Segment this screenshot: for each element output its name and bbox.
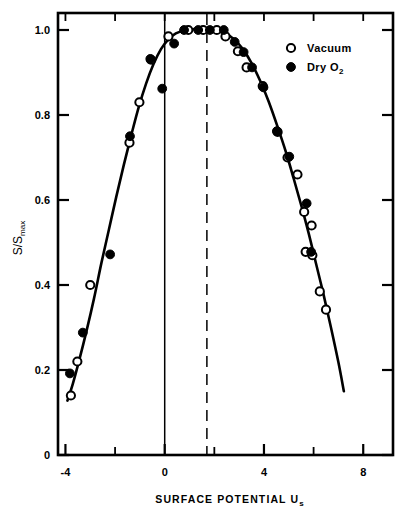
data-point-dry-o2 — [78, 328, 87, 337]
x-tick-label: 4 — [261, 466, 268, 478]
data-point-vacuum — [308, 221, 316, 229]
scatter-chart: -4048 00.20.40.60.81.0 SURFACE POTENTIAL… — [0, 0, 404, 516]
x-tick-label: 8 — [360, 466, 366, 478]
data-point-dry-o2 — [302, 199, 311, 208]
y-axis-title-subscript: max — [18, 221, 27, 236]
data-point-dry-o2 — [126, 132, 135, 141]
data-point-vacuum — [67, 391, 75, 399]
data-point-dry-o2 — [259, 83, 268, 92]
data-point-dry-o2 — [272, 127, 281, 136]
y-tick-label: 0.4 — [35, 279, 51, 291]
data-point-vacuum — [322, 306, 330, 314]
legend-marker-filled-circle — [287, 63, 296, 72]
data-point-dry-o2 — [239, 48, 248, 57]
data-point-dry-o2 — [146, 55, 155, 64]
data-point-vacuum — [316, 287, 324, 295]
data-point-vacuum — [293, 170, 301, 178]
y-tick-label: 0.2 — [35, 364, 50, 376]
data-point-vacuum — [135, 98, 143, 106]
data-point-dry-o2 — [307, 247, 316, 256]
data-point-dry-o2 — [205, 26, 214, 35]
data-point-vacuum — [73, 357, 81, 365]
data-point-vacuum — [86, 281, 94, 289]
data-point-dry-o2 — [106, 250, 115, 259]
data-point-dry-o2 — [180, 26, 189, 35]
y-tick-label: 0 — [44, 449, 50, 461]
data-point-dry-o2 — [158, 84, 167, 93]
y-tick-label: 1.0 — [35, 24, 50, 36]
x-tick-label: 0 — [162, 466, 168, 478]
chart-figure: -4048 00.20.40.60.81.0 SURFACE POTENTIAL… — [0, 0, 404, 516]
x-axis-title-text: SURFACE POTENTIAL U — [155, 493, 299, 505]
data-point-dry-o2 — [248, 63, 257, 72]
chart-background — [0, 0, 404, 516]
x-axis-title-subscript: s — [299, 499, 305, 508]
data-point-vacuum — [164, 32, 172, 40]
legend-label-subscript: 2 — [339, 67, 344, 76]
data-point-dry-o2 — [170, 39, 179, 48]
data-point-dry-o2 — [194, 26, 203, 35]
legend-label: Vacuum — [307, 42, 352, 54]
y-axis-title-text: S/S — [11, 236, 25, 255]
data-point-dry-o2 — [66, 369, 75, 378]
data-point-dry-o2 — [285, 152, 294, 161]
legend-marker-open-circle — [287, 44, 295, 52]
x-tick-label: -4 — [61, 466, 72, 478]
y-tick-label: 0.8 — [35, 109, 50, 121]
y-tick-label: 0.6 — [35, 194, 50, 206]
data-point-dry-o2 — [219, 26, 228, 35]
data-point-vacuum — [300, 208, 308, 216]
data-point-dry-o2 — [230, 38, 239, 47]
